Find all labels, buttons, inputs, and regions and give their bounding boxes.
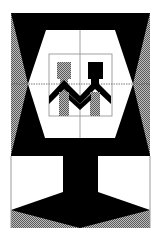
pictogram (0, 0, 161, 237)
right-figure-body (90, 92, 100, 116)
left-figure-head (57, 62, 71, 79)
pedestal-stem (63, 138, 98, 194)
right-figure-head (88, 62, 103, 79)
